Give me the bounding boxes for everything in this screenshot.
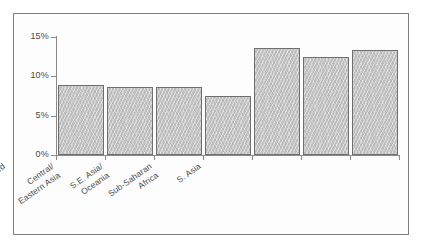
bar xyxy=(352,50,398,155)
y-tick-label-text: 5% xyxy=(3,110,49,120)
y-axis-line xyxy=(56,36,57,156)
y-tick-label-text: 0% xyxy=(3,149,49,159)
plot-area: 0%5%10%15% N. Africa and W. AsiaLatin Am… xyxy=(0,0,425,250)
bar xyxy=(254,48,300,155)
x-tick-mark xyxy=(301,155,302,160)
y-tick-mark xyxy=(51,37,56,38)
x-tick-mark xyxy=(350,155,351,160)
y-tick-label: 15% xyxy=(0,31,49,43)
x-tick-mark xyxy=(252,155,253,160)
y-tick-label-text: 10% xyxy=(3,70,49,80)
bar xyxy=(107,87,153,155)
x-tick-mark xyxy=(399,155,400,160)
x-tick-mark xyxy=(56,155,57,160)
bar xyxy=(205,96,251,155)
y-tick-label-text: 15% xyxy=(3,31,49,41)
x-tick-mark xyxy=(203,155,204,160)
y-tick-mark xyxy=(51,116,56,117)
x-tick-mark xyxy=(105,155,106,160)
bar xyxy=(303,57,349,155)
y-tick-label: 5% xyxy=(0,110,49,122)
bar xyxy=(58,85,104,155)
y-tick-mark xyxy=(51,76,56,77)
chart-figure: 0%5%10%15% N. Africa and W. AsiaLatin Am… xyxy=(0,0,425,250)
y-tick-label: 0% xyxy=(0,149,49,161)
x-axis-line xyxy=(56,155,399,156)
x-tick-mark xyxy=(154,155,155,160)
y-tick-label: 10% xyxy=(0,70,49,82)
bar xyxy=(156,87,202,155)
